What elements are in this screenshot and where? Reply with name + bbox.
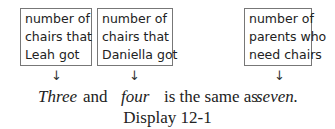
box-line: number of [25, 10, 91, 28]
word-is-the-same-as: is the same as [164, 87, 258, 107]
box-line: need chairs [249, 46, 311, 64]
box-line: number of [249, 10, 311, 28]
word-four: four [121, 87, 149, 107]
word-three: Three [38, 87, 77, 107]
down-arrow-icon: ↓ [129, 68, 139, 83]
label-box-parents: number of parents who need chairs [244, 8, 312, 66]
box-line: number of [102, 10, 172, 28]
box-line: Daniella got [102, 46, 172, 64]
box-line: chairs that [102, 28, 172, 46]
box-line: Leah got [25, 46, 91, 64]
label-box-leah: number of chairs that Leah got [20, 8, 92, 66]
display-caption: Display 12-1 [0, 108, 335, 128]
word-seven: seven. [256, 87, 298, 107]
box-line: parents who [249, 28, 311, 46]
down-arrow-icon: ↓ [274, 68, 284, 83]
down-arrow-icon: ↓ [51, 68, 61, 83]
label-box-daniella: number of chairs that Daniella got [97, 8, 173, 66]
box-line: chairs that [25, 28, 91, 46]
word-and: and [83, 87, 108, 107]
